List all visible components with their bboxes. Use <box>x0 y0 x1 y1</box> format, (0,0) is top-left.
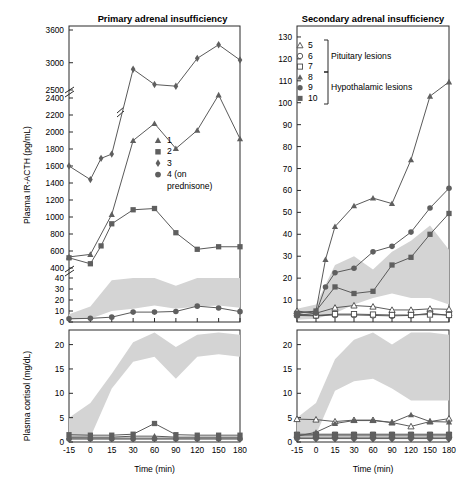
marker-circle <box>408 229 414 235</box>
marker-square <box>408 432 413 437</box>
y-axis-label-cortisol: Plasma cortisol (mg/dL) <box>22 351 32 441</box>
marker-square <box>173 230 178 235</box>
legend-item-9: 9 <box>308 82 313 92</box>
y-tick-label: 30 <box>55 284 65 294</box>
marker-circle <box>351 265 357 271</box>
marker-triangle <box>370 195 376 201</box>
marker-circle <box>66 316 72 322</box>
y-tick-label: 40 <box>283 229 293 239</box>
legend-item-5: 5 <box>308 40 313 50</box>
panel-primary-acth-frame <box>69 26 240 322</box>
marker-circle <box>446 185 452 191</box>
y-tick-label: 5 <box>59 413 64 423</box>
marker-circle <box>237 436 243 442</box>
marker-square <box>98 243 103 248</box>
marker-square <box>297 96 302 101</box>
y-tick-label: 50 <box>283 207 293 217</box>
marker-square-open <box>446 312 451 317</box>
marker-circle <box>152 436 158 442</box>
marker-square <box>370 289 375 294</box>
marker-square <box>155 149 160 154</box>
marker-circle <box>216 436 222 442</box>
marker-square <box>152 421 157 426</box>
y-tick-label: 1600 <box>46 161 65 171</box>
marker-circle <box>332 270 338 276</box>
marker-square <box>389 262 394 267</box>
y-tick-label: 90 <box>283 120 293 130</box>
marker-square <box>88 261 93 266</box>
y-tick-label: 20 <box>55 295 65 305</box>
legend-brace-pituitary <box>324 40 328 72</box>
marker-square-open <box>370 312 375 317</box>
marker-square-open <box>332 311 337 316</box>
x-tick-label: 0 <box>314 445 319 455</box>
marker-circle <box>389 244 395 250</box>
marker-circle <box>173 436 179 442</box>
x-tick-label: 15 <box>107 445 117 455</box>
marker-triangle <box>109 211 115 217</box>
y-tick-label: 20 <box>55 340 65 350</box>
marker-triangle <box>408 412 414 418</box>
marker-diamond <box>109 150 114 157</box>
x-tick-label: 180 <box>442 445 456 455</box>
x-tick-label: -15 <box>291 445 303 455</box>
x-tick-label: 30 <box>129 445 139 455</box>
marker-circle <box>88 436 94 442</box>
marker-square <box>237 244 242 249</box>
marker-square <box>351 432 356 437</box>
y-tick-label: 20 <box>283 273 293 283</box>
y-tick-label: 3000 <box>46 58 65 68</box>
y-tick-label: 120 <box>278 54 292 64</box>
legend-item-2: 2 <box>167 146 172 156</box>
y-tick-label: 15 <box>55 364 65 374</box>
y-tick-label: 20 <box>283 340 293 350</box>
marker-circle <box>194 436 200 442</box>
legend-item-prednisone): prednisone) <box>167 181 213 191</box>
marker-circle <box>152 309 158 315</box>
marker-square-open <box>297 64 302 69</box>
marker-triangle <box>408 157 414 163</box>
y-tick-label: 2500 <box>46 85 65 95</box>
y-tick-label: 110 <box>279 76 293 86</box>
y-tick-label: 0 <box>59 317 64 327</box>
y-tick-label: 40 <box>55 273 65 283</box>
marker-square <box>66 255 71 260</box>
marker-triangle <box>427 93 433 99</box>
legend-item-1: 1 <box>167 135 172 145</box>
marker-square-open <box>389 312 394 317</box>
marker-square <box>446 432 451 437</box>
marker-triangle <box>446 79 452 85</box>
y-tick-label: 400 <box>50 263 64 273</box>
legend-brace-hypothalamic <box>324 72 328 104</box>
y-tick-label: 800 <box>50 229 64 239</box>
x-tick-label: 120 <box>404 445 418 455</box>
legend-item-6: 6 <box>308 51 313 61</box>
marker-square <box>152 206 157 211</box>
marker-circle <box>216 305 222 311</box>
marker-square <box>446 211 451 216</box>
marker-square <box>294 432 299 437</box>
marker-circle <box>194 303 200 309</box>
x-tick-label: 90 <box>171 445 181 455</box>
y-tick-label: 1400 <box>46 178 65 188</box>
y-tick-label: 1800 <box>46 144 65 154</box>
x-tick-label: 120 <box>190 445 204 455</box>
y-tick-label: 10 <box>55 306 65 316</box>
marker-square <box>294 311 299 316</box>
marker-triangle <box>87 251 93 257</box>
marker-circle <box>323 284 329 290</box>
marker-circle <box>130 436 136 442</box>
x-tick-label: 180 <box>233 445 247 455</box>
y-tick-label: 10 <box>55 388 65 398</box>
marker-triangle <box>322 256 328 262</box>
legend-item-8: 8 <box>308 72 313 82</box>
marker-triangle-open <box>297 42 303 47</box>
marker-triangle <box>194 127 200 133</box>
y-tick-label: 10 <box>283 388 293 398</box>
marker-circle <box>88 316 94 322</box>
marker-circle-open <box>297 53 302 58</box>
marker-triangle <box>216 92 222 98</box>
y-tick-label: 5 <box>287 413 292 423</box>
marker-circle <box>237 309 243 315</box>
marker-circle <box>173 309 179 315</box>
